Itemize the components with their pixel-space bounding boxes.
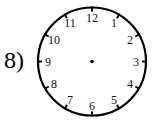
hour-number: 12 (86, 11, 98, 25)
hour-number: 3 (133, 55, 139, 69)
hour-number: 2 (127, 33, 133, 47)
hour-number: 1 (111, 16, 117, 30)
hour-number: 4 (127, 77, 133, 91)
hour-number: 9 (45, 55, 51, 69)
hour-number: 5 (111, 93, 117, 107)
hour-number: 8 (51, 77, 57, 91)
hour-number: 7 (67, 93, 73, 107)
hour-number: 10 (48, 33, 60, 47)
hour-number: 6 (89, 99, 95, 113)
clock-face: 121234567891011 (0, 0, 154, 121)
center-dot (90, 60, 94, 64)
hour-number: 11 (64, 16, 76, 30)
